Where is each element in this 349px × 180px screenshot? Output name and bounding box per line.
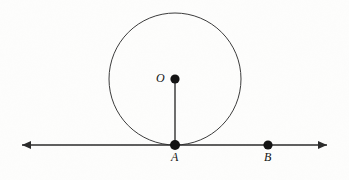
geometry-figure: O A B bbox=[0, 0, 349, 180]
point-label-a: A bbox=[171, 151, 178, 163]
point-dot-b bbox=[263, 140, 272, 149]
point-dot-o bbox=[170, 74, 179, 83]
point-label-o: O bbox=[156, 72, 165, 84]
point-label-b: B bbox=[264, 151, 271, 163]
point-dot-a bbox=[170, 140, 180, 150]
